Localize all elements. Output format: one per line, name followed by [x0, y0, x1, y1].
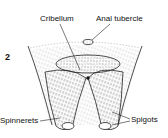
cribellum-label: Cribellum	[40, 14, 74, 23]
figure-number: 2	[5, 52, 10, 62]
anal-tubercle-label: Anal tubercle	[96, 14, 143, 23]
spider-spinneret-illustration: 2 Cribellum Anal tubercle Spinnerets Spi…	[0, 0, 168, 138]
spinnerets-label: Spinnerets	[0, 116, 38, 125]
spigots-label: Spigots	[131, 115, 158, 124]
